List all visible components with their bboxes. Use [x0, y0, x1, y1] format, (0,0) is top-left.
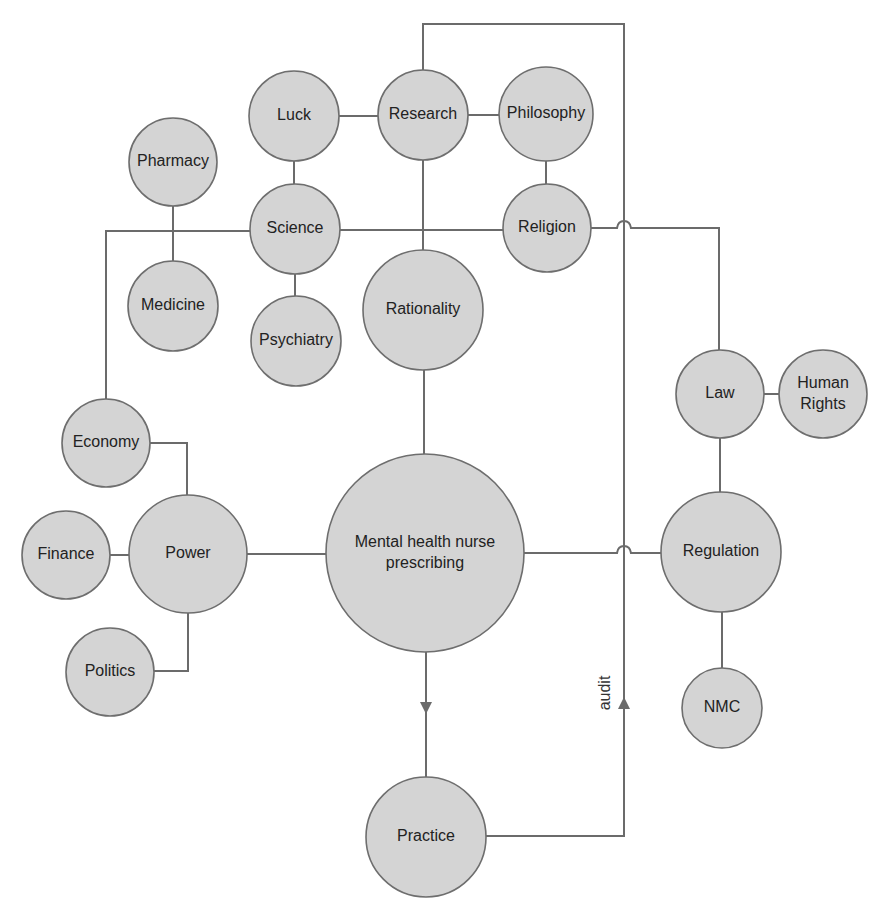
node-label: Law	[705, 384, 735, 401]
node-label: Luck	[277, 106, 312, 123]
node-practice[interactable]: Practice	[366, 777, 486, 897]
node-label: Science	[267, 219, 324, 236]
arrow-down-icon	[420, 702, 432, 714]
node-philosophy[interactable]: Philosophy	[499, 67, 593, 161]
concept-map: audit Luck Research Philosophy Pharmacy …	[0, 0, 884, 912]
node-mental-health-nurse-prescribing[interactable]: Mental health nurse prescribing	[326, 454, 524, 652]
edge-religion-law	[591, 221, 719, 350]
node-rationality[interactable]: Rationality	[363, 250, 483, 370]
node-label: Power	[165, 544, 211, 561]
edge-politics-power	[154, 613, 188, 671]
node-label: Economy	[73, 433, 140, 450]
node-research[interactable]: Research	[378, 70, 468, 160]
node-politics[interactable]: Politics	[66, 628, 154, 716]
node-label: NMC	[704, 698, 740, 715]
node-label: Pharmacy	[137, 152, 209, 169]
edge-economy-power	[150, 443, 187, 495]
node-label: Research	[389, 105, 457, 122]
node-label: Rationality	[386, 300, 461, 317]
node-label: Philosophy	[507, 104, 585, 121]
node-power[interactable]: Power	[129, 495, 247, 613]
node-label-line-2: Rights	[800, 395, 845, 412]
node-religion[interactable]: Religion	[503, 184, 591, 272]
node-human-rights[interactable]: Human Rights	[779, 350, 867, 438]
node-label-line-1: Human	[797, 374, 849, 391]
node-label-line-1: Mental health nurse	[355, 533, 496, 550]
node-label-line-2: prescribing	[386, 554, 464, 571]
node-pharmacy[interactable]: Pharmacy	[129, 118, 217, 206]
arrow-up-icon	[618, 697, 630, 709]
node-label: Religion	[518, 218, 576, 235]
node-regulation[interactable]: Regulation	[661, 492, 781, 612]
nodes: Luck Research Philosophy Pharmacy Scienc…	[22, 67, 867, 897]
node-economy[interactable]: Economy	[62, 399, 150, 487]
node-label: Politics	[85, 662, 136, 679]
node-nmc[interactable]: NMC	[682, 668, 762, 748]
audit-label: audit	[596, 675, 613, 710]
node-label: Medicine	[141, 296, 205, 313]
node-luck[interactable]: Luck	[249, 71, 339, 161]
node-medicine[interactable]: Medicine	[128, 261, 218, 351]
node-label: Practice	[397, 827, 455, 844]
node-label: Finance	[38, 545, 95, 562]
node-label: Regulation	[683, 542, 760, 559]
node-science[interactable]: Science	[250, 184, 340, 274]
node-psychiatry[interactable]: Psychiatry	[251, 296, 341, 386]
node-label: Psychiatry	[259, 331, 333, 348]
edge-mhnp-regulation	[524, 546, 661, 553]
node-law[interactable]: Law	[676, 350, 764, 438]
node-finance[interactable]: Finance	[22, 511, 110, 599]
